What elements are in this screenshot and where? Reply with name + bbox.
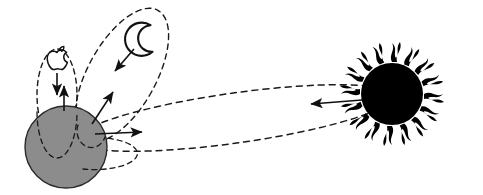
figure-root bbox=[0, 0, 483, 195]
earth-body bbox=[25, 106, 107, 188]
gravitation-diagram bbox=[0, 0, 483, 195]
sun-disk bbox=[361, 63, 423, 125]
earth-disk bbox=[25, 106, 107, 188]
